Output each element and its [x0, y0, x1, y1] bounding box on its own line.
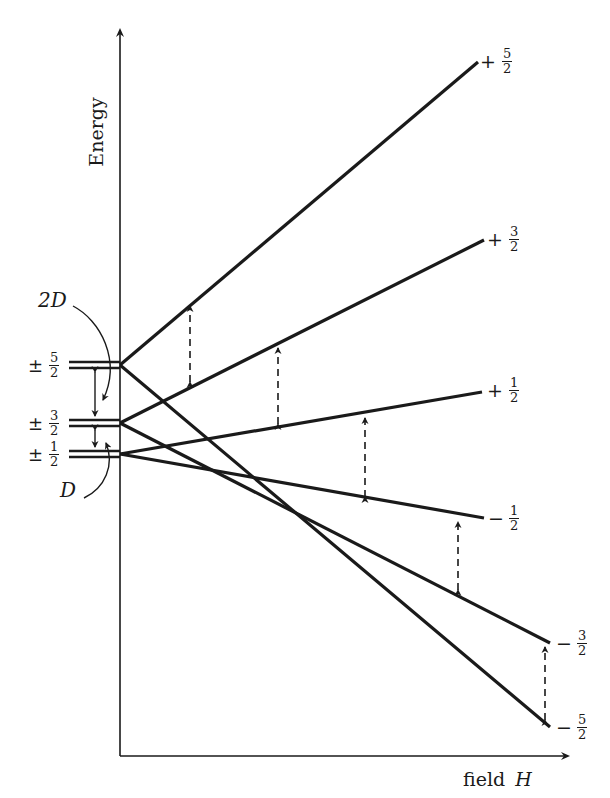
svg-text:+: +: [487, 379, 503, 401]
splitting-arrows: [73, 306, 110, 498]
svg-text:±: ±: [28, 444, 43, 465]
zeeman-lines: [120, 62, 550, 727]
svg-text:2: 2: [503, 61, 511, 76]
svg-text:−: −: [556, 716, 572, 738]
svg-text:2: 2: [510, 518, 518, 533]
level-line-minus-1-2: [120, 454, 484, 518]
svg-text:3: 3: [50, 408, 58, 423]
svg-text:3: 3: [578, 628, 586, 643]
svg-text:±: ±: [28, 413, 43, 434]
svg-text:2: 2: [50, 454, 58, 469]
svg-text:−: −: [488, 507, 504, 529]
energy-level-diagram: Energy field H 2D D ± 5 2 ± 3 2 ± 1 2 + …: [0, 0, 610, 798]
level-line-minus-5-2: [120, 365, 550, 727]
svg-text:5: 5: [50, 350, 58, 365]
svg-text:2: 2: [50, 365, 58, 380]
label-2d: 2D: [37, 288, 67, 312]
svg-text:2: 2: [578, 643, 586, 658]
svg-text:±: ±: [28, 355, 43, 376]
level-line-plus-1-2: [120, 392, 482, 454]
svg-text:1: 1: [510, 375, 518, 390]
level-line-plus-5-2: [120, 62, 478, 365]
level-line-minus-3-2: [120, 423, 550, 643]
svg-text:1: 1: [510, 503, 518, 518]
y-axis-label: Energy: [85, 97, 107, 167]
x-axis-label: field H: [463, 768, 532, 790]
high-field-state-labels: + 5 2 + 3 2 + 1 2 − 1 2 − 3 2 − 5 2: [480, 46, 587, 742]
svg-text:5: 5: [578, 712, 586, 727]
svg-text:5: 5: [503, 46, 511, 61]
curved-arrow-2d: [73, 306, 110, 400]
svg-text:2: 2: [510, 239, 518, 254]
zero-field-state-labels: ± 5 2 ± 3 2 ± 1 2: [28, 350, 59, 469]
svg-text:+: +: [487, 228, 503, 250]
label-d: D: [59, 478, 76, 502]
svg-text:+: +: [480, 50, 496, 72]
svg-text:−: −: [556, 632, 572, 654]
svg-text:1: 1: [50, 439, 58, 454]
svg-text:2: 2: [510, 390, 518, 405]
svg-text:3: 3: [510, 224, 518, 239]
svg-text:2: 2: [50, 423, 58, 438]
svg-text:2: 2: [578, 727, 586, 742]
level-line-plus-3-2: [120, 240, 484, 423]
